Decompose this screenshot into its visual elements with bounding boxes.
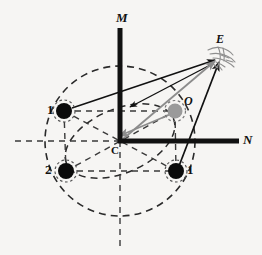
point-dot	[168, 104, 183, 119]
point-dot	[168, 163, 184, 179]
ray-o-to-c	[119, 114, 171, 136]
sight-rays-grey-group	[119, 61, 215, 139]
origin-label-c: C	[111, 145, 119, 156]
m-axis-label: M	[116, 11, 128, 24]
ray-c-to-e	[123, 61, 215, 139]
point-left-1[interactable]	[53, 100, 75, 122]
point-label-bottom-right-1: 1	[187, 163, 194, 176]
point-dot	[58, 163, 74, 179]
n-axis-label: N	[243, 133, 252, 146]
point-bottom-left-2[interactable]	[55, 160, 77, 182]
point-label-left-1: 1	[47, 103, 54, 116]
ray-p1left-to-e	[72, 60, 215, 108]
observer-sketch-icon	[208, 47, 235, 70]
observer-label-e: E	[216, 33, 224, 45]
point-observed-o[interactable]	[165, 101, 186, 122]
point-bottom-right-1[interactable]	[165, 160, 187, 182]
diagram-canvas: M N C O E 1 2 1	[0, 0, 262, 255]
point-dot	[56, 103, 72, 119]
point-label-o: O	[184, 95, 193, 107]
point-label-bottom-left-2: 2	[45, 163, 52, 176]
